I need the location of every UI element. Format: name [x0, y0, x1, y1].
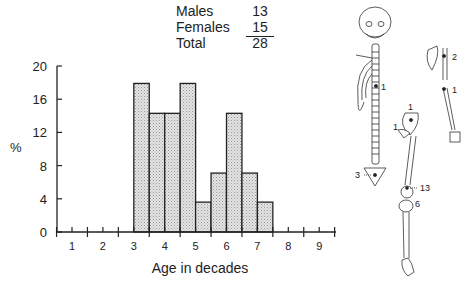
histogram-bar	[196, 202, 211, 232]
leg-skeleton: 1 1 13 6	[393, 102, 430, 276]
arm-label-1: 1	[452, 85, 457, 95]
axial-skeleton: 1 3	[355, 7, 391, 186]
histogram-bar	[242, 173, 257, 232]
histogram-bar	[165, 113, 180, 232]
histogram-bar	[149, 113, 164, 232]
leg-label-1b: 1	[393, 122, 398, 132]
x-axis-label: Age in decades	[152, 260, 249, 276]
x-tick-label: 5	[193, 240, 199, 252]
x-tick-label: 8	[285, 240, 291, 252]
x-tick-label: 4	[162, 240, 168, 252]
y-tick-label: 8	[40, 159, 47, 174]
axial-label-3: 3	[355, 170, 360, 180]
age-histogram: 048121620123456789 % Age in decades 1 3 …	[0, 0, 472, 287]
histogram-bar	[180, 83, 195, 232]
leg-label-6: 6	[415, 199, 420, 209]
y-tick-label: 4	[40, 192, 47, 207]
y-axis-label: %	[10, 140, 22, 155]
y-tick-label: 12	[33, 125, 47, 140]
y-tick-label: 0	[40, 225, 47, 240]
histogram-bar	[211, 173, 226, 232]
x-tick-label: 7	[254, 240, 260, 252]
skeleton-illustration: 1 3 2 1 1 1 13 6	[355, 7, 460, 276]
histogram-bars	[134, 83, 273, 232]
histogram-bar	[227, 113, 242, 232]
x-tick-label: 2	[100, 240, 106, 252]
x-tick-label: 6	[223, 240, 229, 252]
axial-label-1: 1	[381, 82, 386, 92]
x-tick-label: 1	[69, 240, 75, 252]
arm-skeleton: 2 1	[427, 46, 460, 142]
arm-label-2: 2	[452, 52, 457, 62]
y-tick-label: 20	[33, 59, 47, 74]
x-tick-label: 3	[131, 240, 137, 252]
y-tick-label: 16	[33, 92, 47, 107]
x-tick-label: 9	[316, 240, 322, 252]
leg-label-1a: 1	[408, 102, 413, 112]
histogram-bar	[257, 202, 272, 232]
histogram-bar	[134, 83, 149, 232]
leg-label-13: 13	[420, 183, 430, 193]
